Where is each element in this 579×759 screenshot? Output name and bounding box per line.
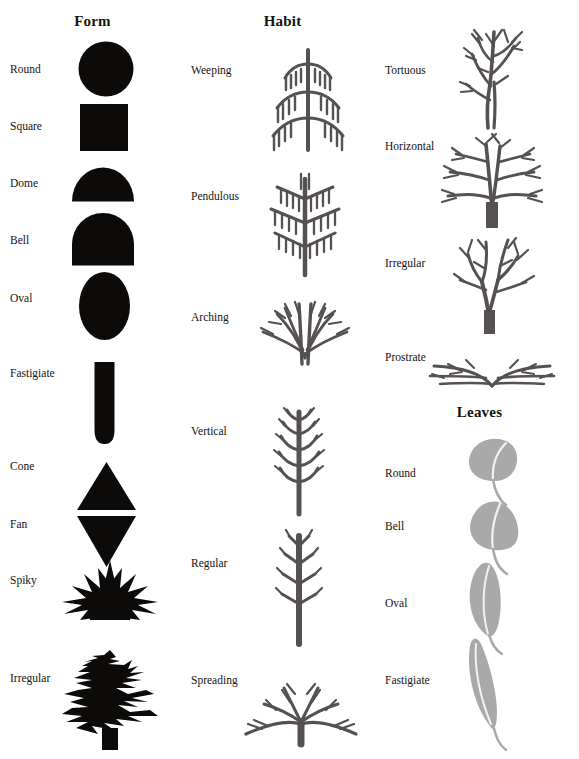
figure-vertical-tree	[265, 408, 333, 516]
row-label-leaf-fastigiate: Fastigiate	[385, 675, 430, 687]
column-habit: Habit Weeping Pendulous	[185, 0, 380, 759]
section-header-habit: Habit	[185, 13, 380, 30]
figure-square-silhouette	[80, 104, 128, 151]
figure-tortuous-tree	[452, 26, 532, 130]
column-form: Form Round Square Dome Bell Oval Fastigi…	[0, 0, 185, 759]
figure-regular-tree	[265, 530, 333, 646]
row-label-regular: Regular	[191, 558, 227, 570]
figure-bell-silhouette	[72, 213, 134, 266]
figure-oval-silhouette	[79, 272, 130, 340]
section-header-leaves: Leaves	[380, 404, 579, 421]
row-label-fan: Fan	[10, 519, 27, 531]
row-label-irregular-habit: Irregular	[385, 258, 425, 270]
figure-arching-tree	[255, 298, 355, 364]
figure-weeping-tree	[253, 44, 363, 152]
row-label-leaf-oval: Oval	[385, 598, 407, 610]
row-label-cone: Cone	[10, 461, 34, 473]
chart-sheet: Form Round Square Dome Bell Oval Fastigi…	[0, 0, 579, 759]
row-label-leaf-bell: Bell	[385, 521, 404, 533]
figure-irregular-silhouette	[58, 650, 162, 750]
row-label-spiky: Spiky	[10, 575, 37, 587]
row-label-horizontal: Horizontal	[385, 141, 434, 153]
figure-prostrate-tree	[426, 352, 558, 394]
row-label-leaf-round: Round	[385, 468, 416, 480]
column-shape: Tortuous Hori	[380, 0, 579, 759]
figure-fastigiate-leaf	[456, 636, 518, 754]
row-label-irregular-form: Irregular	[10, 673, 50, 685]
section-header-form: Form	[0, 13, 185, 30]
row-label-pendulous: Pendulous	[191, 191, 239, 203]
figure-fastigiate-silhouette	[93, 362, 116, 444]
figure-spiky-silhouette	[60, 560, 160, 620]
row-label-tortuous: Tortuous	[385, 65, 426, 77]
row-label-bell: Bell	[10, 235, 29, 247]
figure-round-silhouette	[78, 41, 134, 97]
figure-spreading-tree	[240, 676, 362, 746]
figure-irregular-tree	[442, 234, 544, 334]
figure-pendulous-tree	[259, 165, 351, 277]
row-label-fastigiate: Fastigiate	[10, 368, 55, 380]
row-label-prostrate: Prostrate	[385, 352, 426, 364]
row-label-round: Round	[10, 64, 41, 76]
figure-horizontal-tree	[434, 128, 550, 228]
row-label-oval: Oval	[10, 293, 32, 305]
row-label-dome: Dome	[10, 178, 38, 190]
row-label-weeping: Weeping	[191, 65, 232, 77]
row-label-vertical: Vertical	[191, 426, 227, 438]
figure-dome-silhouette	[72, 165, 134, 202]
row-label-square: Square	[10, 121, 42, 133]
row-label-spreading: Spreading	[191, 675, 238, 687]
figure-cone-silhouette	[77, 462, 136, 510]
row-label-arching: Arching	[191, 312, 229, 324]
